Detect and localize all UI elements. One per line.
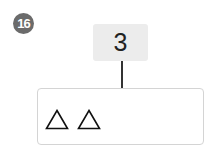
- triangle-outline-icon: [77, 109, 101, 130]
- connector-line: [121, 61, 123, 88]
- problem-number-badge: 16: [13, 13, 34, 34]
- number-value: 3: [114, 28, 128, 57]
- triangle-outline-icon: [45, 109, 69, 130]
- shape-box: [37, 88, 204, 145]
- number-box: 3: [93, 24, 148, 61]
